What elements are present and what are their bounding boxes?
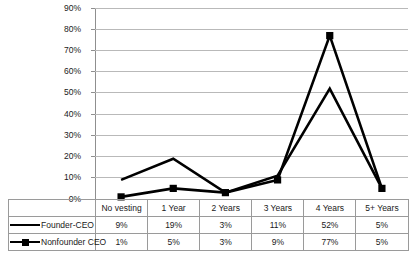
legend-label: Founder-CEO <box>41 220 94 230</box>
data-cell: 5% <box>356 234 408 251</box>
data-cell: 77% <box>304 234 356 251</box>
table-row: Founder-CEO9%19%3%11%52%5% <box>9 217 409 234</box>
data-cell: 9% <box>96 217 148 234</box>
data-cell: 9% <box>252 234 304 251</box>
y-tick-label-30: 30% <box>47 131 81 140</box>
data-cell: 3% <box>200 234 252 251</box>
legend-header-blank <box>9 200 96 217</box>
data-point-marker <box>326 32 333 39</box>
y-tick-label-40: 40% <box>47 110 81 119</box>
table-header-row: No vesting1 Year2 Years3 Years4 Years5+ … <box>9 200 409 217</box>
category-header-2-years: 2 Years <box>200 200 252 217</box>
data-cell: 52% <box>304 217 356 234</box>
data-cell: 19% <box>148 217 200 234</box>
plot-area: 0%10%20%30%40%50%60%70%80%90% <box>95 8 408 199</box>
y-tick-label-20: 20% <box>47 152 81 161</box>
data-point-marker <box>170 185 177 192</box>
data-point-marker <box>274 176 281 183</box>
legend-entry-founder-ceo[interactable]: Founder-CEO <box>9 217 96 234</box>
category-header-3-years: 3 Years <box>252 200 304 217</box>
chart-container: 0%10%20%30%40%50%60%70%80%90% No vesting… <box>0 0 417 257</box>
y-tick-label-80: 80% <box>47 25 81 34</box>
category-header-1-year: 1 Year <box>148 200 200 217</box>
data-cell: 3% <box>200 217 252 234</box>
legend-entry-nonfounder-ceo[interactable]: Nonfounder CEO <box>9 234 96 251</box>
category-header-5-years: 5+ Years <box>356 200 408 217</box>
category-header-4-years: 4 Years <box>304 200 356 217</box>
y-tick-label-50: 50% <box>47 88 81 97</box>
data-cell: 5% <box>148 234 200 251</box>
y-tick-label-70: 70% <box>47 46 81 55</box>
data-point-marker <box>222 189 229 196</box>
legend-label: Nonfounder CEO <box>41 237 106 247</box>
y-tick-label-60: 60% <box>47 67 81 76</box>
table-row: Nonfounder CEO1%5%3%9%77%5% <box>9 234 409 251</box>
legend-line-icon <box>9 218 41 232</box>
y-tick-label-10: 10% <box>47 173 81 182</box>
data-cell: 5% <box>356 217 408 234</box>
series-line-founder-ceo <box>121 89 382 193</box>
category-header-no-vesting: No vesting <box>96 200 148 217</box>
data-legend-table: No vesting1 Year2 Years3 Years4 Years5+ … <box>8 199 409 251</box>
data-cell: 11% <box>252 217 304 234</box>
y-tick-label-90: 90% <box>47 4 81 13</box>
series-plot <box>95 8 408 199</box>
legend-line-square-marker-icon <box>9 235 41 249</box>
data-point-marker <box>378 185 385 192</box>
